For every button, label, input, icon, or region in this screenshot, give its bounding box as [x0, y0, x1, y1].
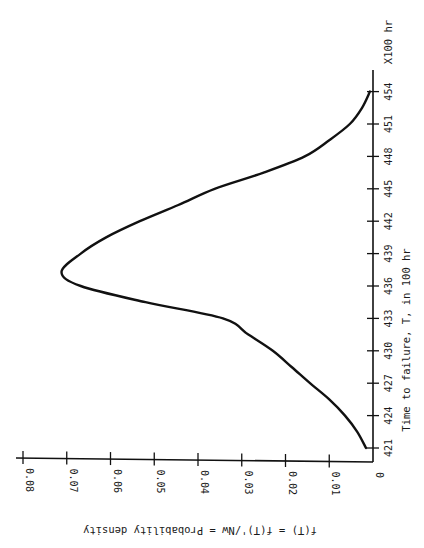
density-tick-label: 0.08	[24, 468, 35, 492]
time-tick-label: 430	[383, 342, 394, 360]
density-tick-label: 0.07	[68, 469, 79, 493]
time-axis-title: Time to failure, T, in 100 hr	[400, 248, 412, 431]
axes	[16, 70, 373, 462]
density-tick-label: 0	[374, 472, 385, 478]
time-tick-label: 445	[383, 180, 394, 198]
density-tick-label: 0.05	[155, 470, 166, 494]
density-tick-label: 0.03	[243, 470, 254, 494]
density-tick-label: 0.06	[112, 469, 123, 493]
density-curve	[62, 92, 370, 448]
time-tick-label: 448	[383, 147, 394, 165]
time-tick-label: 433	[383, 309, 394, 327]
density-tick-label: 0.01	[330, 471, 341, 495]
density-axis-line	[16, 458, 373, 462]
time-tick-label: 451	[383, 115, 394, 133]
time-tick-label: 421	[383, 439, 394, 457]
time-tick-label: 436	[383, 277, 394, 295]
density-tick-label: 0.02	[287, 471, 298, 495]
time-tick-label: 427	[383, 374, 394, 392]
time-tick-label: 424	[383, 407, 394, 425]
time-tick-label: 442	[383, 212, 394, 230]
time-tick-label: 439	[383, 245, 394, 263]
density-axis-ticks: 00.010.020.030.040.050.060.070.08	[23, 451, 385, 495]
chart: 421424427430433436439442445448451454 00.…	[0, 0, 424, 548]
time-axis-ticks: 421424427430433436439442445448451454	[367, 83, 394, 457]
time-tick-label: 454	[383, 83, 394, 101]
time-unit-label: X100 hr	[382, 20, 394, 64]
density-tick-label: 0.04	[199, 470, 210, 494]
density-axis-title: f(T) = f(T)'/Nw = Probability density	[83, 525, 317, 537]
